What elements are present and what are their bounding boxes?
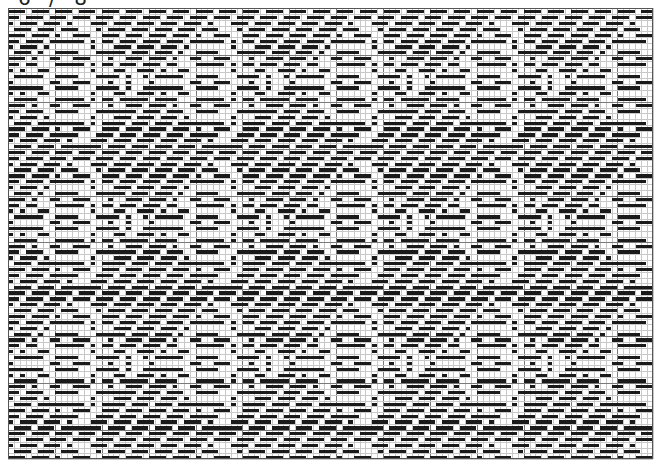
float bbox=[296, 192, 313, 195]
float bbox=[378, 250, 418, 253]
float bbox=[55, 204, 83, 207]
float bbox=[442, 327, 459, 330]
float bbox=[419, 280, 436, 283]
float bbox=[612, 362, 623, 365]
float bbox=[618, 86, 640, 89]
weave-draft-grid[interactable] bbox=[8, 8, 653, 459]
float bbox=[559, 280, 576, 283]
float bbox=[143, 16, 160, 19]
float bbox=[372, 92, 377, 95]
float bbox=[477, 391, 499, 394]
float bbox=[612, 385, 623, 388]
float bbox=[589, 63, 600, 66]
float bbox=[44, 280, 61, 283]
float bbox=[372, 303, 389, 306]
float bbox=[278, 116, 295, 119]
float bbox=[477, 34, 482, 37]
float bbox=[296, 168, 313, 171]
float bbox=[61, 145, 101, 148]
float bbox=[102, 40, 113, 43]
float bbox=[325, 256, 330, 259]
float bbox=[184, 45, 189, 48]
grid-line-h bbox=[8, 283, 653, 284]
float bbox=[483, 28, 500, 31]
float bbox=[337, 344, 365, 347]
float bbox=[266, 227, 271, 230]
float bbox=[448, 157, 465, 160]
float bbox=[430, 57, 447, 60]
float bbox=[430, 338, 447, 341]
float bbox=[237, 86, 259, 89]
float bbox=[606, 116, 611, 119]
float bbox=[91, 321, 96, 324]
float bbox=[9, 274, 20, 277]
float bbox=[307, 391, 324, 394]
float bbox=[354, 297, 371, 300]
float bbox=[190, 198, 201, 201]
float bbox=[126, 81, 131, 84]
float bbox=[624, 168, 641, 171]
float bbox=[389, 104, 394, 107]
float bbox=[32, 456, 49, 459]
float bbox=[395, 22, 412, 25]
float bbox=[237, 192, 265, 195]
float bbox=[202, 28, 219, 31]
float bbox=[284, 180, 301, 183]
float bbox=[600, 403, 646, 406]
float bbox=[20, 22, 37, 25]
float bbox=[571, 409, 588, 412]
float bbox=[155, 51, 172, 54]
float bbox=[96, 157, 113, 160]
float bbox=[442, 233, 447, 236]
float bbox=[548, 221, 553, 224]
float bbox=[184, 397, 189, 400]
float bbox=[91, 262, 96, 265]
float bbox=[55, 98, 83, 101]
float bbox=[196, 333, 218, 336]
float bbox=[384, 98, 395, 101]
float bbox=[9, 280, 14, 283]
float bbox=[389, 81, 394, 84]
float bbox=[636, 456, 653, 459]
grid-line-h bbox=[8, 242, 653, 243]
float bbox=[9, 104, 26, 107]
float bbox=[161, 139, 178, 142]
float bbox=[237, 356, 259, 359]
grid-line-h bbox=[8, 248, 653, 249]
float bbox=[372, 180, 377, 183]
float bbox=[284, 215, 289, 218]
float bbox=[284, 438, 301, 441]
grid-line-h bbox=[8, 412, 653, 413]
float bbox=[196, 215, 218, 218]
float bbox=[266, 362, 271, 365]
float bbox=[102, 10, 119, 13]
float bbox=[477, 315, 482, 318]
float bbox=[91, 204, 96, 207]
float bbox=[595, 409, 612, 412]
float bbox=[9, 116, 14, 119]
float bbox=[548, 291, 565, 294]
float bbox=[630, 139, 635, 142]
float bbox=[378, 450, 383, 453]
float bbox=[137, 280, 154, 283]
float bbox=[167, 344, 178, 347]
float bbox=[14, 403, 31, 406]
float bbox=[73, 104, 90, 107]
float bbox=[120, 344, 137, 347]
grid-line-h bbox=[8, 377, 653, 378]
float bbox=[448, 180, 465, 183]
float bbox=[460, 145, 477, 148]
float bbox=[143, 157, 160, 160]
float bbox=[243, 40, 254, 43]
float bbox=[413, 28, 430, 31]
float bbox=[214, 456, 231, 459]
float bbox=[425, 16, 442, 19]
float bbox=[430, 151, 447, 154]
float bbox=[384, 262, 406, 265]
float bbox=[430, 268, 447, 271]
float bbox=[302, 280, 319, 283]
float bbox=[20, 92, 25, 95]
float bbox=[419, 397, 436, 400]
float bbox=[471, 245, 482, 248]
float bbox=[524, 239, 535, 242]
